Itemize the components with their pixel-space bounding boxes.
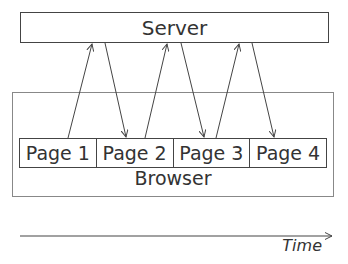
arrows-layer	[0, 0, 348, 264]
response-arrow-3	[252, 43, 274, 137]
time-label: Time	[270, 236, 322, 255]
response-arrow-1	[105, 43, 126, 137]
response-arrow-2	[181, 43, 204, 137]
request-arrow-3	[216, 44, 239, 138]
request-arrow-2	[145, 44, 167, 138]
request-arrow-1	[68, 44, 92, 138]
